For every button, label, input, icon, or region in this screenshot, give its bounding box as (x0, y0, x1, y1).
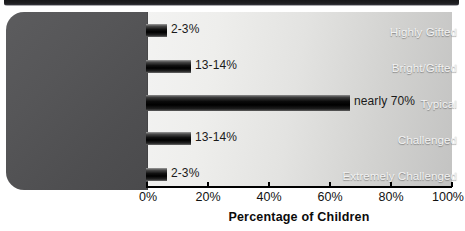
value-label-extremely-challenged: 2-3% (171, 166, 199, 180)
x-axis-tick-label-100: 100% (432, 190, 464, 204)
category-label-bright-gifted: Bright/Gifted (392, 62, 457, 74)
category-label-highly-gifted: Highly Gifted (390, 26, 457, 38)
x-axis-tick-label-80: 80% (378, 190, 403, 204)
x-axis-tick-0 (146, 182, 148, 187)
bar-challenged (146, 132, 191, 145)
bar-bright-gifted (146, 60, 191, 73)
value-label-typical: nearly 70% (354, 94, 415, 108)
value-label-bright-gifted: 13-14% (195, 58, 237, 72)
page-top-edge-strip (4, 0, 459, 6)
bar-highly-gifted (146, 24, 167, 37)
x-axis-tick-label-40: 40% (256, 190, 281, 204)
category-label-extremely-challenged: Extremely Challenged (342, 170, 457, 182)
x-axis-tick-label-0: 0% (139, 190, 157, 204)
x-axis-tick-label-60: 60% (317, 190, 342, 204)
category-label-panel (6, 12, 148, 190)
bar-typical (146, 95, 350, 111)
value-label-challenged: 13-14% (195, 130, 237, 144)
x-axis-line (146, 186, 452, 188)
x-axis-tick-20 (207, 182, 209, 187)
category-label-typical: Typical (421, 98, 458, 110)
x-axis-tick-label-20: 20% (195, 190, 220, 204)
bar-chart-figure: Highly Gifted Bright/Gifted Typical Chal… (0, 0, 465, 231)
x-axis-tick-40 (268, 182, 270, 187)
category-label-challenged: Challenged (398, 134, 457, 146)
x-axis-title: Percentage of Children (146, 210, 452, 224)
x-axis-tick-60 (329, 182, 331, 187)
x-axis-tick-100 (451, 182, 453, 187)
x-axis-tick-80 (390, 182, 392, 187)
bar-extremely-challenged (146, 168, 167, 181)
value-label-highly-gifted: 2-3% (171, 22, 199, 36)
